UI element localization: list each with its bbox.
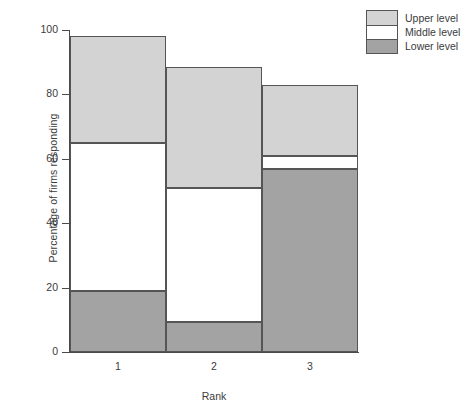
x-tick-label-2: 2 [166, 360, 262, 372]
legend-swatch-middle-level [367, 25, 397, 39]
y-tick-label-0: 0 [18, 346, 58, 357]
legend-swatch-lower-level [367, 39, 397, 53]
x-tick-label-3: 3 [262, 360, 358, 372]
legend-labels: Upper level Middle level Lower level [405, 10, 460, 53]
bar-column-rank-1[interactable] [70, 30, 166, 352]
y-tick-100 [62, 30, 70, 31]
bar-segment-upper-rank-3[interactable] [262, 85, 358, 156]
y-tick-label-60: 60 [18, 153, 58, 164]
bars-area [70, 30, 358, 352]
bar-column-rank-2[interactable] [166, 30, 262, 352]
x-tick-label-1: 1 [70, 360, 166, 372]
legend-swatches [366, 10, 398, 54]
y-tick-label-20: 20 [18, 282, 58, 293]
legend-swatch-upper-level [367, 11, 397, 25]
y-tick-40 [62, 223, 70, 224]
legend-label-lower-level: Lower level [405, 39, 460, 53]
y-tick-80 [62, 94, 70, 95]
x-axis-line [62, 352, 359, 353]
bar-segment-lower-rank-2[interactable] [166, 322, 262, 352]
bar-segment-lower-rank-3[interactable] [262, 169, 358, 353]
stacked-bar-chart: Percentage of firms responding 100 80 60… [0, 0, 470, 413]
y-tick-label-100: 100 [18, 24, 58, 35]
x-axis-title: Rank [70, 390, 358, 402]
legend-label-middle-level: Middle level [405, 25, 460, 39]
bar-segment-lower-rank-1[interactable] [70, 291, 166, 352]
bar-segment-middle-rank-3[interactable] [262, 156, 358, 169]
bar-segment-middle-rank-2[interactable] [166, 188, 262, 322]
y-tick-60 [62, 159, 70, 160]
bar-segment-upper-rank-2[interactable] [166, 67, 262, 188]
y-tick-20 [62, 288, 70, 289]
bar-column-rank-3[interactable] [262, 30, 358, 352]
y-tick-label-40: 40 [18, 217, 58, 228]
bar-segment-upper-rank-1[interactable] [70, 36, 166, 142]
bar-segment-middle-rank-1[interactable] [70, 143, 166, 291]
legend-label-upper-level: Upper level [405, 11, 460, 25]
legend: Upper level Middle level Lower level [366, 10, 460, 54]
y-tick-label-80: 80 [18, 88, 58, 99]
